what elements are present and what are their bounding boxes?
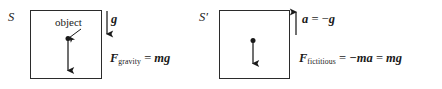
a-symbol: a	[302, 12, 308, 26]
f-fictitious-term-1: −ma	[349, 51, 373, 65]
frame-label-s-text: S	[8, 10, 14, 24]
object-callout-label: object	[55, 17, 82, 28]
f-fictitious-equals-2: =	[376, 51, 383, 65]
f-gravity-subscript: gravity	[118, 57, 141, 66]
f-fictitious-term-2: mg	[386, 51, 402, 65]
frame-label-s: S	[8, 11, 14, 24]
a-minus-sign: −	[322, 12, 329, 26]
f-gravity-equation: Fgravity = mg	[110, 52, 170, 65]
gravitational-field-label: g	[111, 13, 117, 26]
f-fictitious-equation: Ffictitious = −ma = mg	[299, 52, 402, 65]
frame-label-s-prime: S′	[199, 11, 208, 24]
a-equals: =	[311, 12, 318, 26]
physics-diagram-canvas: S object g Fgravity = mg S′ a = −g Ffict…	[0, 0, 442, 89]
acceleration-label: a = −g	[302, 13, 335, 26]
f-gravity-rhs: mg	[154, 51, 170, 65]
frame-box-s-prime	[219, 10, 290, 79]
a-rhs-g: g	[329, 12, 335, 26]
g-symbol: g	[111, 12, 117, 26]
prime-glyph: ′	[205, 10, 208, 24]
f-fictitious-equals-1: =	[339, 51, 346, 65]
f-gravity-equals: =	[144, 51, 151, 65]
f-fictitious-subscript: fictitious	[307, 57, 336, 66]
